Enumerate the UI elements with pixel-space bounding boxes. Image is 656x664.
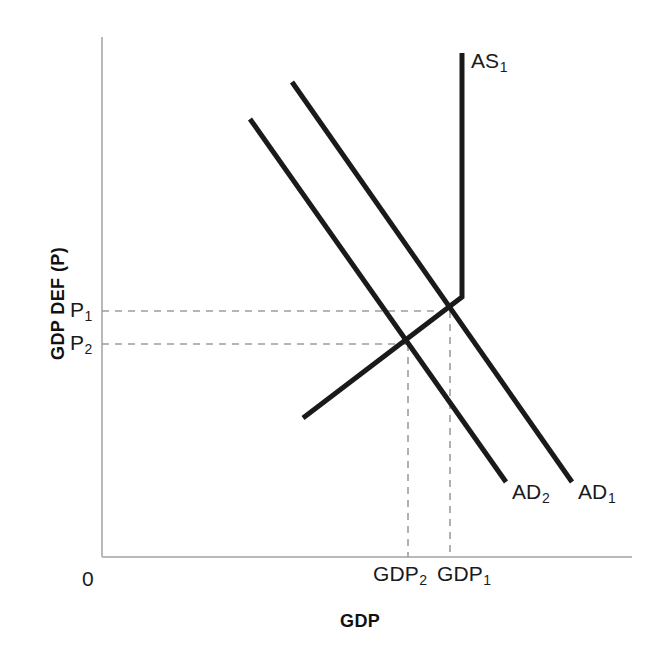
x-axis-title: GDP [340,611,380,632]
curve-ad1 [292,82,572,482]
ad-as-chart-figure: AS1 AD2 AD1 P1 P2 GDP2 GDP1 0 GDP DEF (P… [0,0,656,664]
curve-label-ad2: AD2 [512,481,549,502]
curve-label-as1: AS1 [471,50,507,71]
curve-as1 [303,53,462,418]
curve-label-ad1: AD1 [578,481,615,502]
chart-canvas [0,0,656,664]
y-tick-label-p1: P1 [70,299,92,320]
x-tick-label-gdp1: GDP1 [437,563,491,584]
y-axis-title: GDP DEF (P) [48,247,69,360]
y-tick-label-p2: P2 [70,332,92,353]
origin-label: 0 [82,567,94,591]
x-tick-label-gdp2: GDP2 [373,563,427,584]
curve-ad2 [250,119,506,482]
